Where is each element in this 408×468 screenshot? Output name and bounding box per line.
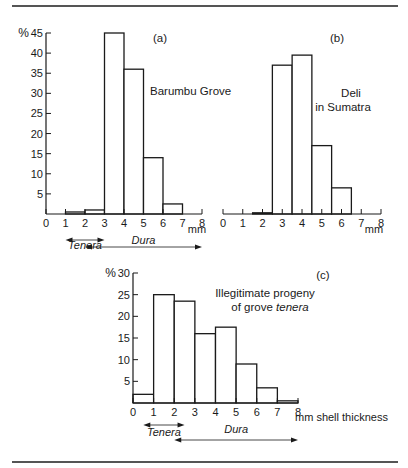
range-label: Dura [132,234,156,246]
histogram-bar [257,388,278,403]
x-tick-label: 1 [62,217,68,229]
x-tick-label: 4 [299,217,305,229]
x-tick-label: 0 [130,406,136,418]
x-tick-label: 2 [259,217,265,229]
x-tick-label: 2 [82,217,88,229]
panel-title-line: Illegitimate progeny [215,287,315,299]
range-label: Tenera [68,239,102,251]
histogram-bar [105,33,125,214]
panel-title: Barumbu Grove [150,85,231,97]
panel-title-line: in Sumatra [315,101,371,113]
y-tick-label: 35 [31,67,43,79]
y-tick-label: 20 [31,128,43,140]
histogram-bar [124,69,144,214]
arrow-head-left-icon [174,438,181,443]
histogram-bar [312,146,332,214]
x-tick-label: 6 [338,217,344,229]
range-label: Tenera [147,426,181,438]
histogram-bar [216,327,237,403]
histogram-bar [163,204,183,214]
histogram-bar [144,158,164,214]
x-axis-label: mm shell thickness [295,411,388,423]
x-axis-label: mm [365,223,383,235]
x-tick-label: 7 [179,217,185,229]
x-tick-label: 3 [279,217,285,229]
histogram-bar [85,210,105,214]
histogram-bar [272,65,292,214]
panel-c-illegitimate-progeny: 01234567851015202530%(c)Illegitimate pro… [105,266,388,443]
arrow-head-right-icon [195,245,202,250]
histogram-bar [236,364,257,403]
y-tick-label: 15 [31,148,43,160]
range-label: Dura [224,423,248,435]
arrow-head-right-icon [291,438,298,443]
histogram-bar [195,334,216,403]
x-tick-label: 5 [233,406,239,418]
y-tick-label: 10 [118,354,130,366]
x-tick-label: 5 [319,217,325,229]
y-tick-label: 25 [31,107,43,119]
x-tick-label: 1 [240,217,246,229]
x-tick-label: 0 [220,217,226,229]
histogram-figure: 01234567851015202530354045%(a)Barumbu Gr… [0,0,408,468]
panel-label: (b) [330,32,344,44]
x-tick-label: 7 [274,406,280,418]
x-axis-label: mm [188,223,206,235]
y-tick-label: 30 [31,87,43,99]
x-tick-label: 6 [160,217,166,229]
x-tick-label: 0 [43,217,49,229]
y-tick-label: 40 [31,47,43,59]
panel-b-deli-sumatra: 012345678(b)Deliin Sumatramm [220,32,384,235]
y-tick-label: 5 [124,375,130,387]
y-tick-label: 30 [118,267,130,279]
y-tick-label: 25 [118,289,130,301]
x-tick-label: 6 [254,406,260,418]
x-tick-label: 4 [212,406,218,418]
y-tick-label: 45 [31,27,43,39]
x-tick-label: 5 [140,217,146,229]
y-tick-label: 20 [118,310,130,322]
x-tick-label: 3 [101,217,107,229]
panel-a-barumbu-grove: 01234567851015202530354045%(a)Barumbu Gr… [18,26,231,251]
histogram-bar [292,55,312,214]
histogram-bar [174,301,195,403]
panel-title-line: Deli [341,87,361,99]
y-unit-label: % [18,26,29,40]
panel-label: (a) [153,32,167,44]
panel-label: (c) [316,269,330,281]
x-tick-label: 1 [151,406,157,418]
histogram-bar [133,394,154,403]
x-tick-label: 3 [192,406,198,418]
y-tick-label: 10 [31,168,43,180]
y-tick-label: 5 [37,188,43,200]
x-tick-label: 4 [121,217,127,229]
x-tick-label: 2 [171,406,177,418]
panel-title-line: of grove tenera [231,301,308,313]
y-unit-label: % [105,266,116,280]
x-tick-label: 7 [358,217,364,229]
histogram-bar [154,295,175,403]
y-tick-label: 15 [118,332,130,344]
